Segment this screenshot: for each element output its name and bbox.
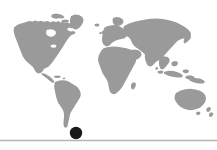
figure-root: World map silhouette in grey with a blac… — [0, 0, 217, 150]
location-marker-dot[interactable] — [70, 127, 82, 139]
world-map-canvas — [0, 0, 217, 150]
